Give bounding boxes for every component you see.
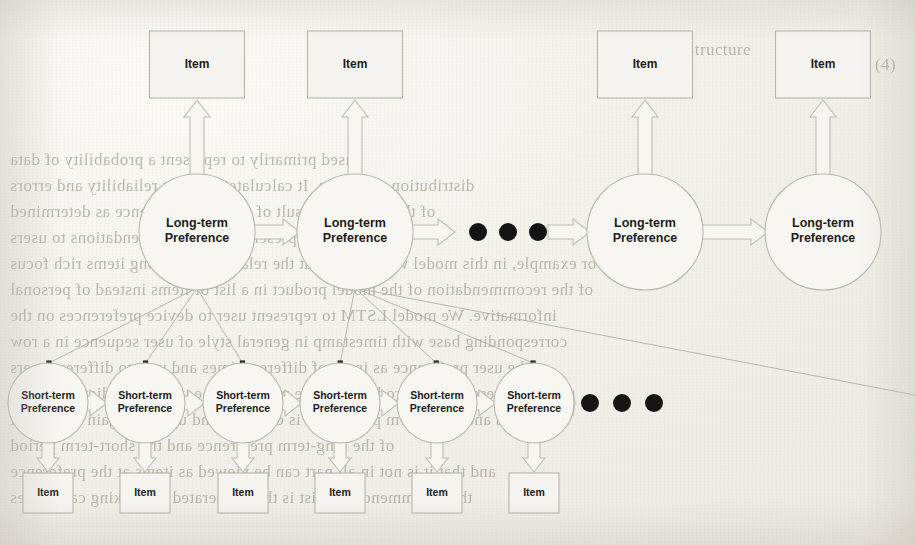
item-emission-arrow-up (342, 100, 368, 176)
fan-connector-line (146, 288, 197, 363)
long-term-preference-circle (139, 174, 255, 290)
item-box (598, 31, 693, 98)
long-term-transition-arrow (548, 219, 590, 245)
ellipsis-dot (469, 223, 487, 241)
short-term-preference-circle (397, 363, 477, 443)
item-box (308, 31, 403, 98)
item-emission-arrow-up (184, 100, 210, 176)
fan-connector-line (355, 288, 533, 363)
item-box (120, 473, 170, 513)
item-emission-arrow-down (232, 441, 254, 472)
item-box (218, 473, 268, 513)
item-emission-arrow-down (426, 441, 448, 472)
short-term-transition-arrow (184, 390, 205, 416)
short-term-transition-arrow (379, 390, 399, 416)
item-emission-arrow-down (523, 441, 545, 472)
ellipsis-dot (581, 394, 599, 412)
ellipsis-dot (613, 394, 631, 412)
short-term-preference-circle (8, 363, 88, 443)
item-box (150, 31, 245, 98)
short-term-preference-circle (203, 363, 283, 443)
item-box (315, 473, 365, 513)
short-term-transition-arrow (476, 390, 496, 416)
short-term-preference-circle (300, 363, 380, 443)
short-term-transition-arrow (87, 390, 107, 416)
diagram-canvas: .ink { fill:none; stroke:#b9b6ae; stroke… (0, 0, 915, 545)
item-box (776, 31, 871, 98)
item-box (23, 473, 73, 513)
short-term-preference-circle (494, 363, 574, 443)
fan-connector-line (49, 288, 197, 363)
long-term-transition-arrow (253, 219, 300, 245)
ellipsis-dot (499, 223, 517, 241)
item-emission-arrow-down (134, 441, 156, 472)
long-term-transition-arrow (701, 219, 768, 245)
fan-connector-line (340, 288, 355, 363)
item-box (412, 473, 462, 513)
item-emission-arrow-down (329, 441, 351, 472)
ellipsis-dot (645, 394, 663, 412)
short-term-transition-arrow (282, 390, 302, 416)
fan-connector-line (197, 288, 242, 363)
long-term-transition-arrow (411, 219, 455, 245)
long-term-preference-circle (587, 174, 703, 290)
preference-circle-layer (8, 174, 881, 443)
item-emission-arrow-down (37, 441, 59, 472)
long-term-preference-circle (297, 174, 413, 290)
item-emission-arrow-up (810, 100, 836, 176)
scanned-figure-page: used primarily to represent a probabilit… (0, 0, 915, 545)
short-term-preference-circle (105, 363, 185, 443)
ellipsis-dot (529, 223, 547, 241)
fan-connector-line (355, 288, 436, 363)
long-term-preference-circle (765, 174, 881, 290)
item-box (509, 473, 559, 513)
item-emission-arrow-up (632, 100, 658, 176)
